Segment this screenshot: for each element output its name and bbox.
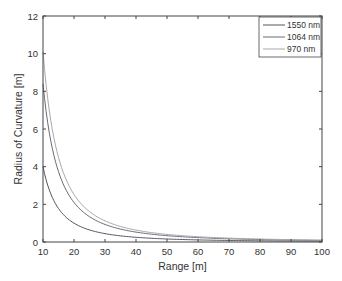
x-tick-label: 80 <box>255 246 266 257</box>
x-axis-label: Range [m] <box>158 260 207 272</box>
x-tick-label: 70 <box>224 246 235 257</box>
x-tick-label: 30 <box>100 246 111 257</box>
y-tick-label: 8 <box>33 86 38 97</box>
x-tick-label: 40 <box>131 246 142 257</box>
y-tick-label: 10 <box>27 48 38 59</box>
legend-label: 1064 nm <box>287 32 320 42</box>
y-tick-label: 2 <box>33 199 38 210</box>
series-line-2 <box>43 52 322 240</box>
y-tick-label: 12 <box>27 11 38 22</box>
y-tick-label: 6 <box>33 124 38 135</box>
legend-label: 1550 nm <box>287 20 320 30</box>
x-tick-label: 10 <box>38 246 49 257</box>
y-tick-label: 0 <box>33 237 38 248</box>
x-tick-label: 90 <box>286 246 297 257</box>
y-tick-label: 4 <box>33 161 38 172</box>
legend-label: 970 nm <box>287 44 315 54</box>
series-line-1 <box>43 84 322 241</box>
x-tick-label: 20 <box>69 246 80 257</box>
line-chart: 102030405060708090100024681012Range [m]R… <box>0 0 342 281</box>
x-tick-label: 100 <box>314 246 330 257</box>
x-tick-label: 60 <box>193 246 204 257</box>
series-line-0 <box>43 167 322 242</box>
y-axis-label: Radius of Curvature [m] <box>12 73 24 184</box>
x-tick-label: 50 <box>162 246 173 257</box>
